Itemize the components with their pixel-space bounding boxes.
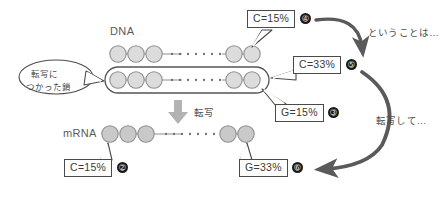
dna-bottom-node <box>128 72 144 88</box>
transcription-arrow-label: 転写 <box>194 108 214 118</box>
transcription-arrow-icon <box>168 100 188 124</box>
dna-bottom-node <box>226 72 242 88</box>
mrna-node <box>120 126 136 142</box>
dna-bottom-node <box>146 72 162 88</box>
dna-top-node <box>146 46 162 62</box>
dna-top-node <box>244 46 260 62</box>
mrna-node <box>220 126 236 142</box>
badge-4: ➄ <box>346 59 357 70</box>
speech-bubble-line2: つかった鎖 <box>26 80 71 92</box>
dna-top-node <box>128 46 144 62</box>
mrna-node <box>102 126 118 142</box>
dna-strand-top <box>110 46 260 62</box>
dna-label: DNA <box>110 26 134 37</box>
annotation-tensha-shite: 転写して… <box>376 116 427 126</box>
dna-strand-bottom-group <box>105 67 269 93</box>
dna-top-node <box>110 46 126 62</box>
badge-5: ➅ <box>292 162 303 173</box>
value-box-c15-dna: C=15% <box>247 10 295 28</box>
annotation-toiukotowa: ということは… <box>368 28 439 38</box>
curved-arrow-top <box>316 19 362 47</box>
speech-bubble-line1: 転写に <box>31 67 58 79</box>
mrna-node <box>238 126 254 142</box>
mrna-label: mRNA <box>63 128 97 139</box>
transcription-diagram: DNA mRNA 転写 転写に つかった鎖 ということは… 転写して… C=15… <box>0 0 448 197</box>
value-box-c15-mrna: C=15% <box>64 159 112 177</box>
mrna-strand <box>102 126 254 142</box>
mrna-node <box>138 126 154 142</box>
value-box-c33-dna: C=33% <box>293 56 341 74</box>
badge-1: ➁ <box>117 162 128 173</box>
dna-bottom-node <box>244 72 260 88</box>
value-box-g15-dna: G=15% <box>275 104 324 122</box>
dna-bottom-node <box>110 72 126 88</box>
value-box-g33-mrna: G=33% <box>239 159 288 177</box>
badge-2: ➂ <box>328 107 339 118</box>
dna-top-node <box>226 46 242 62</box>
badge-3: ➃ <box>300 13 311 24</box>
